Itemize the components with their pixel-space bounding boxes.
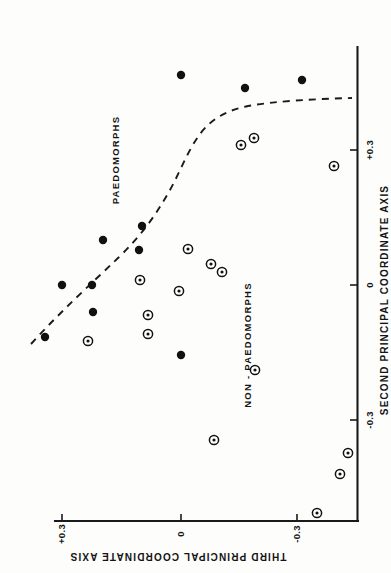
region-label-non-paedomorphs: NON - PAEDOMORPHS: [242, 282, 253, 408]
data-point-bullseye: [143, 310, 152, 319]
data-point-bullseye: [329, 161, 338, 170]
data-point-filled: [177, 351, 185, 359]
data-point-bullseye: [250, 365, 259, 374]
data-point-filled: [135, 246, 143, 254]
data-point-filled: [241, 84, 249, 92]
ticklabel-second-plus03: +0.3: [364, 140, 375, 160]
ticklabel-third-minus03: -0.3: [291, 525, 302, 543]
data-point-bullseye: [209, 435, 218, 444]
third-principal-coordinate-axis-title: THIRD PRINCIPAL COORDINATE AXIS: [70, 551, 287, 562]
ticklabel-third-plus03: +0.3: [56, 524, 67, 544]
ticklabel-third-zero: 0: [175, 531, 186, 537]
data-point-bullseye: [143, 329, 152, 338]
scatter-plot-figure: +0.3 0 -0.3 +0.3 0 -0.3 SECOND PRINCIPAL…: [0, 0, 391, 573]
data-point-bullseye: [312, 508, 321, 517]
data-point-filled: [298, 76, 306, 84]
discriminant-dashed-curve: [31, 98, 352, 344]
ticklabel-second-zero: 0: [364, 282, 375, 288]
data-point-filled: [99, 236, 107, 244]
second-axis-ticks: [350, 150, 357, 420]
data-point-filled: [58, 281, 66, 289]
data-point-filled: [89, 308, 97, 316]
data-point-filled: [41, 333, 49, 341]
second-principal-coordinate-axis-title: SECOND PRINCIPAL COORDINATE AXIS: [379, 185, 390, 415]
region-label-paedomorphs: PAEDOMORPHS: [110, 116, 121, 205]
data-point-bullseye: [335, 469, 344, 478]
data-point-filled: [177, 71, 185, 79]
series-paedomorphs-points: [41, 71, 306, 359]
data-point-bullseye: [249, 133, 258, 142]
data-point-bullseye: [174, 286, 183, 295]
data-point-bullseye: [83, 336, 92, 345]
axes-group: [55, 47, 358, 521]
series-non-paedomorphs-points: [83, 133, 352, 517]
data-point-bullseye: [183, 244, 192, 253]
data-point-bullseye: [206, 259, 215, 268]
data-point-bullseye: [135, 275, 144, 284]
data-point-bullseye: [343, 448, 352, 457]
second-axis-tick-labels: +0.3 0 -0.3: [364, 140, 375, 429]
data-point-bullseye: [217, 267, 226, 276]
third-axis-tick-labels: +0.3 0 -0.3: [56, 524, 302, 544]
plot-canvas: +0.3 0 -0.3 +0.3 0 -0.3 SECOND PRINCIPAL…: [0, 0, 391, 573]
data-point-filled: [88, 281, 96, 289]
ticklabel-second-minus03: -0.3: [364, 411, 375, 429]
data-point-filled: [138, 222, 146, 230]
data-point-bullseye: [236, 140, 245, 149]
